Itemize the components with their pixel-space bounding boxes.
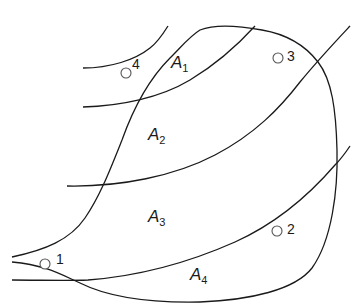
area-label-a2: A2: [147, 125, 165, 146]
contour-line-2: [83, 26, 255, 107]
area-label-a3: A3: [147, 207, 165, 228]
point-3-marker: [273, 53, 283, 63]
point-3: 3: [273, 48, 295, 64]
point-2-label: 2: [287, 221, 295, 237]
point-3-label: 3: [287, 48, 295, 64]
contour-line-1: [83, 26, 168, 68]
point-1: 1: [40, 251, 64, 269]
point-1-marker: [40, 259, 50, 269]
point-4-marker: [121, 68, 131, 78]
point-2: 2: [272, 221, 295, 237]
point-2-marker: [272, 226, 282, 236]
point-1-label: 1: [56, 251, 64, 267]
area-label-a4: A4: [189, 265, 207, 286]
diagram-canvas: 4 3 2 1 A1 A2 A3 A4: [0, 0, 352, 308]
point-4-label: 4: [132, 56, 140, 72]
area-label-a1: A1: [170, 53, 188, 74]
